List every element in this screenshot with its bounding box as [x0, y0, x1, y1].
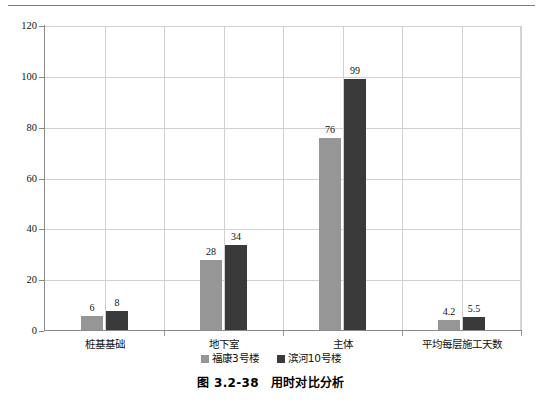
bar [200, 260, 222, 331]
y-tick-mark [39, 77, 44, 78]
legend-label: 滨河10号楼 [288, 353, 341, 364]
y-tick-label: 80 [6, 123, 37, 134]
y-axis-line [44, 25, 45, 331]
y-tick-mark [39, 26, 44, 27]
y-tick-label: 40 [6, 224, 37, 235]
chart-plot-area [45, 26, 521, 331]
caption-number: 图 3.2-38 [197, 376, 259, 390]
bar [319, 138, 341, 331]
gridline-vertical [283, 26, 284, 331]
gridline-vertical [164, 26, 165, 331]
bar [463, 317, 485, 331]
x-category-label: 地下室 [164, 338, 283, 351]
x-category-label: 主体 [283, 338, 402, 351]
y-tick-label: 100 [6, 72, 37, 83]
bar [225, 245, 247, 331]
y-tick-mark [39, 331, 44, 332]
x-tick-mark [402, 331, 403, 336]
y-tick-label: 0 [6, 326, 37, 337]
gridline-vertical [105, 26, 106, 331]
x-tick-mark [283, 331, 284, 336]
bar-value-label: 34 [219, 232, 253, 242]
bar-value-label: 5.5 [457, 304, 491, 314]
legend-item[interactable]: 滨河10号楼 [277, 353, 341, 364]
figure-caption: 图 3.2-38用时对比分析 [0, 376, 542, 391]
figure-container: 020406080100120 桩基基础地下室主体平均每层施工天数 682834… [0, 0, 542, 405]
y-tick-label: 20 [6, 275, 37, 286]
y-tick-label: 120 [6, 21, 37, 32]
bar [81, 316, 103, 331]
x-category-label: 桩基基础 [45, 338, 164, 351]
bar-value-label: 8 [100, 298, 134, 308]
bar-value-label: 76 [313, 125, 347, 135]
y-tick-mark [39, 229, 44, 230]
x-category-label: 平均每层施工天数 [402, 338, 521, 351]
gridline-vertical [402, 26, 403, 331]
x-tick-mark [521, 331, 522, 336]
y-tick-label: 60 [6, 174, 37, 185]
legend-label: 福康3号楼 [212, 353, 259, 364]
gridline-vertical [462, 26, 463, 331]
gridline-vertical [521, 26, 522, 331]
bar-value-label: 99 [338, 66, 372, 76]
bar [344, 79, 366, 331]
y-tick-mark [39, 128, 44, 129]
legend-swatch-icon [277, 355, 285, 363]
y-tick-mark [39, 179, 44, 180]
chart-legend: 福康3号楼滨河10号楼 [0, 353, 542, 364]
legend-item[interactable]: 福康3号楼 [201, 353, 259, 364]
caption-title: 用时对比分析 [271, 376, 345, 390]
bar [106, 311, 128, 331]
y-tick-mark [39, 280, 44, 281]
bar-value-label: 28 [194, 247, 228, 257]
x-tick-mark [164, 331, 165, 336]
legend-swatch-icon [201, 355, 209, 363]
